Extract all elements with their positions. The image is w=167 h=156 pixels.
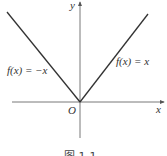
x-axis-label: x bbox=[155, 103, 161, 115]
left-function-label: f(x) = −x bbox=[7, 64, 48, 77]
origin-label: O bbox=[68, 104, 76, 116]
right-function-label: f(x) = x bbox=[116, 55, 149, 68]
function-graph: y x O f(x) = −x f(x) = x 图 1-1 bbox=[0, 0, 167, 156]
figure-caption: 图 1-1 bbox=[64, 150, 96, 156]
y-axis-label: y bbox=[69, 0, 75, 11]
line-f-neg-x bbox=[7, 12, 80, 102]
